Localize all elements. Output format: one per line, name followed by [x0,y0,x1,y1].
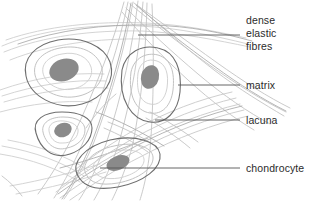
label-matrix-line-1: matrix [246,79,275,92]
nucleus-top-left [46,55,81,85]
chondrocyte-top-left [25,39,111,106]
histology-diagram: dense elastic fibres matrix lacuna chond… [0,0,319,201]
label-lacuna-line-1: lacuna [246,114,278,127]
label-dense-elastic-fibres-line-1: dense [246,14,276,27]
label-dense-elastic-fibres: dense elastic fibres [246,14,276,54]
label-dense-elastic-fibres-line-3: fibres [246,40,276,53]
label-matrix: matrix [246,79,275,92]
label-dense-elastic-fibres-line-2: elastic [246,27,276,40]
label-lacuna: lacuna [246,114,278,127]
label-chondrocyte-line-1: chondrocyte [246,162,304,175]
label-chondrocyte: chondrocyte [246,162,304,175]
nucleus-lower-left [52,120,74,140]
